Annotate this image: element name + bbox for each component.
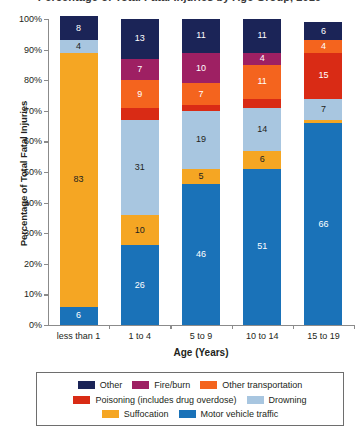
y-axis-tick-mark [44,172,49,173]
bar-segment: 83 [60,53,98,307]
legend-row: OtherFire/burnOther transportation [37,378,343,393]
y-axis-tick-mark [44,50,49,51]
bar-segment: 4 [243,53,281,65]
legend-label: Suffocation [124,409,169,419]
x-axis-title: Age (Years) [48,347,354,358]
bar-segment: 7 [304,99,342,120]
legend-swatch-icon [78,381,95,389]
stacked-bar: 1141114651 [243,19,281,325]
x-axis-tick-label: 15 to 19 [307,331,340,341]
y-axis-tick-label: 70% [2,106,42,116]
legend-item[interactable]: Other transportation [200,380,302,390]
y-axis-tick-mark [44,264,49,265]
y-axis-tick-label: 50% [2,167,42,177]
bar-segment: 11 [182,19,220,53]
x-axis-tick-label: 5 to 9 [190,331,213,341]
x-axis-tick-label: 10 to 14 [246,331,279,341]
bar-segment-value: 6 [260,155,265,164]
bar-segment-value: 10 [135,226,145,235]
bar-segment-value: 46 [196,250,206,259]
y-axis-tick-mark [44,111,49,112]
y-axis-tick-mark [44,294,49,295]
bar-segment-value: 11 [196,31,205,40]
legend-swatch-icon [247,396,264,404]
legend-label: Poisoning (includes drug overdose) [95,395,236,405]
bar-segment-value: 8 [76,24,81,33]
bar-segment [243,99,281,108]
bar-segment: 26 [121,245,159,325]
bar-segment-value: 66 [318,220,328,229]
stacked-bar: 1110719546 [182,19,220,325]
legend-item[interactable]: Other [78,380,123,390]
x-axis-tick-mark [109,325,110,329]
y-axis-tick-label: 30% [2,228,42,238]
bar-segment-value: 7 [198,90,203,99]
bar-segment: 66 [304,123,342,325]
bar-segment: 31 [121,120,159,215]
x-axis-line [48,325,354,326]
bar-segment: 7 [121,59,159,80]
bar-segment: 11 [243,19,281,53]
legend-label: Other [100,380,123,390]
bar-segment-value: 51 [257,242,267,251]
bar-segment-value: 7 [137,65,142,74]
bar-segment: 15 [304,53,342,99]
bar-segment-value: 14 [257,125,267,134]
y-axis-tick-mark [44,203,49,204]
bar-segment: 11 [243,65,281,99]
bar-segment: 9 [121,80,159,108]
y-axis-tick-label: 90% [2,45,42,55]
bar-segment-value: 4 [321,42,326,51]
x-axis-tick-mark [354,325,355,329]
bar-segment: 51 [243,169,281,325]
y-axis-tick-mark [44,19,49,20]
x-axis-tick-label: less than 1 [57,331,101,341]
y-axis-tick-mark [44,80,49,81]
y-axis-tick-label: 0% [2,320,42,330]
plot-area: 0%10%20%30%40%50%60%70%80%90%100% 848361… [48,19,354,325]
y-axis-tick-mark [44,141,49,142]
y-axis-tick-label: 20% [2,259,42,269]
bar-segment-value: 15 [318,71,328,80]
legend-label: Fire/burn [154,380,190,390]
y-axis-tick-mark [44,233,49,234]
legend-item[interactable]: Drowning [247,395,307,405]
chart-title: Percentage of Total Fatal Injuries by Ag… [0,0,359,3]
bar-segment: 4 [60,40,98,52]
bar-segment: 10 [182,53,220,84]
bar-segment-value: 19 [196,135,206,144]
y-axis-tick-mark [44,325,49,326]
stacked-bar: 6415766 [304,22,342,325]
bar-segment-value: 11 [258,77,267,86]
legend-row: SuffocationMotor vehicle traffic [37,407,343,422]
bar-segment: 46 [182,184,220,325]
legend-swatch-icon [200,381,217,389]
bar-segment-value: 6 [321,27,326,36]
bar-segment [121,108,159,120]
bar-segment: 6 [60,307,98,325]
x-axis-tick-mark [232,325,233,329]
bar-segment: 14 [243,108,281,151]
y-axis-tick-label: 60% [2,136,42,146]
bar-segment-value: 6 [76,311,81,320]
legend-item[interactable]: Suffocation [102,409,169,419]
bar-segment-value: 7 [321,105,326,114]
legend-swatch-icon [132,381,149,389]
chart-legend: OtherFire/burnOther transportationPoison… [36,372,344,426]
bar-segment-value: 13 [135,34,145,43]
x-axis-tick-label: 1 to 4 [129,331,152,341]
bar-segment-value: 11 [258,31,267,40]
bar-segment: 6 [304,22,342,40]
legend-swatch-icon [179,410,196,418]
y-axis-tick-label: 100% [2,14,42,24]
legend-item[interactable]: Poisoning (includes drug overdose) [73,395,236,405]
y-axis-tick-label: 80% [2,75,42,85]
legend-item[interactable]: Motor vehicle traffic [179,409,279,419]
bar-segment-value: 9 [137,90,142,99]
bar-segment-value: 5 [198,172,203,181]
stacked-bar: 1379311026 [121,19,159,325]
bar-segment: 19 [182,111,220,169]
legend-item[interactable]: Fire/burn [132,380,190,390]
legend-row: Poisoning (includes drug overdose)Drowni… [37,393,343,408]
bar-segment: 7 [182,83,220,104]
